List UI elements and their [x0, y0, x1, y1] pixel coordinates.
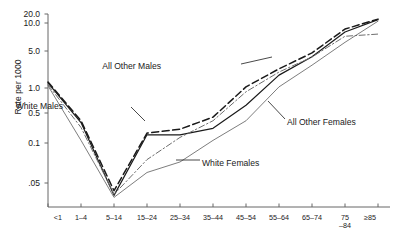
series-label-white-females: White Females: [202, 158, 259, 168]
chart-container: Rate per 1000 20.010.05.01.00.50.1.05 <1…: [0, 0, 408, 245]
x-tick-label: <1: [22, 214, 62, 222]
annotation-leader-line: [268, 101, 285, 119]
series-label-all-other-females: All Other Females: [287, 117, 356, 127]
series-label-white-males: White Males: [16, 101, 63, 111]
x-tick-label: 75 –84: [325, 214, 365, 230]
annotation-leader-line: [241, 57, 272, 64]
x-tick-label: ≥85: [364, 214, 404, 222]
annotation-leader-line: [131, 107, 145, 121]
series-line-white-females: [48, 21, 378, 197]
series-label-all-other-males: All Other Males: [102, 61, 161, 71]
series-line-all-other-females: [48, 34, 378, 194]
